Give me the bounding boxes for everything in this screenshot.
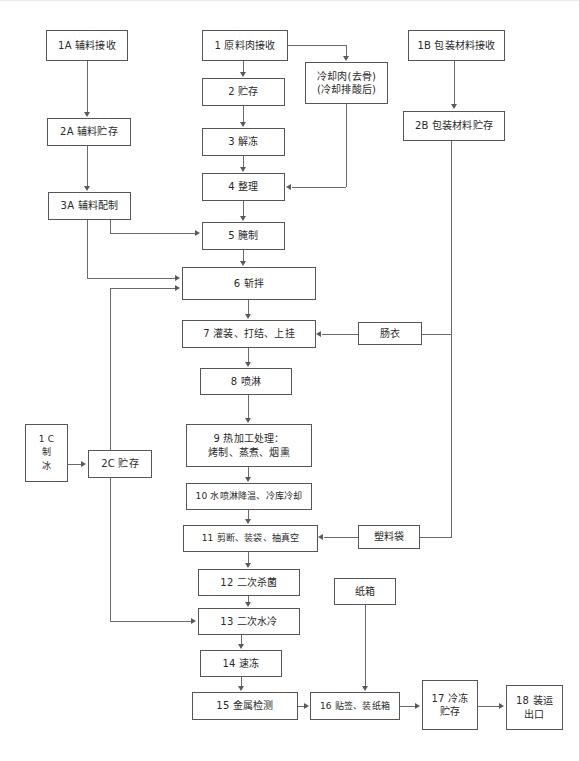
node-label: 16 贴签、装纸箱	[320, 700, 390, 712]
connector-bag-to-11	[324, 537, 358, 538]
node-label-line-1: 18 装运	[516, 694, 553, 708]
node-label-line-2: 贮存	[440, 705, 460, 719]
node-3-jiedong[interactable]: 3 解冻	[202, 128, 285, 156]
arrowhead-1c-to-2c	[81, 461, 86, 467]
node-18-zhuangyun-chukou[interactable]: 18 装运 出口	[506, 685, 563, 730]
arrowhead-1-to-2	[240, 72, 246, 77]
node-1-yuanliaorou-jieshou[interactable]: 1 原料肉接收	[202, 30, 288, 61]
connector-2-to-3	[243, 106, 244, 122]
arrowhead-15-to-16	[304, 703, 309, 709]
node-label: 15 金属检测	[216, 699, 273, 713]
node-changyi-casing[interactable]: 肠衣	[358, 322, 422, 345]
arrowhead-4-to-5	[240, 216, 246, 221]
node-13-erci-shuileng[interactable]: 13 二次水冷	[198, 608, 300, 635]
node-12-erci-shajun[interactable]: 12 二次杀菌	[198, 569, 300, 596]
arrowhead-1-to-cool	[343, 56, 349, 61]
node-label: 13 二次水冷	[220, 615, 277, 629]
connector-2c-to-13-v	[110, 478, 111, 621]
connector-1a-to-2a	[87, 61, 88, 113]
node-lengqueRou-qugu[interactable]: 冷却肉(去骨) (冷却排酸后)	[305, 62, 388, 104]
arrowhead-3-to-4	[240, 167, 246, 172]
arrowhead-3a-to-5	[195, 230, 200, 236]
node-2a-fuliao-zhucun[interactable]: 2A 辅料贮存	[47, 118, 131, 146]
connector-carton-to-16	[365, 605, 366, 686]
arrowhead-2c-to-6	[175, 285, 180, 291]
node-1c-zhibing[interactable]: 1 C 制 冰	[25, 424, 68, 482]
node-label: 肠衣	[380, 327, 400, 341]
connector-13-to-14	[241, 635, 242, 644]
node-14-sudong[interactable]: 14 速冻	[200, 650, 282, 677]
node-2c-zhucun[interactable]: 2C 贮存	[88, 450, 152, 478]
arrowhead-5-to-6	[240, 261, 246, 266]
node-4-zhengli[interactable]: 4 整理	[202, 173, 285, 201]
node-zhixiang-carton[interactable]: 纸箱	[334, 578, 396, 605]
node-10-shuipenlin-jiangwen[interactable]: 10 水喷淋降温、冷库冷却	[186, 483, 312, 510]
node-label-line-1: 9 热加工处理：	[213, 432, 284, 446]
arrowhead-17-to-18	[499, 703, 504, 709]
node-1b-baozhuang-cailiao-jieshou[interactable]: 1B 包装材料接收	[408, 30, 505, 61]
connector-16-to-17	[400, 706, 416, 707]
flowchart-canvas: 1A 辅料接收 1 原料肉接收 冷却肉(去骨) (冷却排酸后) 1B 包装材料接…	[0, 0, 579, 761]
node-8-penlin[interactable]: 8 喷淋	[200, 368, 292, 395]
node-label: 1B 包装材料接收	[417, 39, 495, 53]
top-rule	[0, 0, 579, 1]
connector-3a-to-6-v	[87, 220, 88, 278]
node-11-jianduan-zhuangdai-chouzhenkong[interactable]: 11 剪断、装袋、抽真空	[183, 525, 318, 552]
arrowhead-13-to-14	[238, 644, 244, 649]
node-label: 塑料袋	[374, 530, 405, 544]
connector-14-to-15	[241, 677, 242, 686]
connector-10-to-11	[248, 510, 249, 519]
node-label: 4 整理	[228, 180, 258, 194]
arrowhead-1a-to-2a	[84, 112, 90, 117]
node-label: 14 速冻	[223, 657, 260, 671]
connector-2c-to-13-h	[110, 621, 192, 622]
connector-cool-to-4-v	[346, 104, 347, 187]
node-3a-fuliao-peizhi[interactable]: 3A 辅料配制	[48, 192, 131, 220]
connector-6-to-7	[248, 300, 249, 314]
node-15-jinshu-jiance[interactable]: 15 金属检测	[192, 692, 298, 720]
node-9-rejiagong-chuli[interactable]: 9 热加工处理： 烤制、蒸煮、烟熏	[186, 424, 312, 467]
node-label: 7 灌装、打结、上挂	[203, 327, 295, 341]
connector-3a-to-5-v	[110, 220, 111, 233]
node-6-zhanban[interactable]: 6 斩拌	[182, 267, 316, 300]
node-2-zhucun[interactable]: 2 贮存	[202, 78, 285, 106]
connector-1-to-cool-h	[288, 45, 347, 46]
node-5-yanzhi[interactable]: 5 腌制	[202, 222, 285, 250]
node-label-line-3: 冰	[42, 460, 51, 473]
node-label-line-2: 出口	[524, 708, 544, 722]
arrowhead-1b-to-2b	[451, 104, 457, 109]
node-label: 纸箱	[355, 585, 375, 599]
arrowhead-10-to-11	[245, 519, 251, 524]
connector-5-to-6	[243, 250, 244, 261]
connector-casing-to-7	[322, 334, 358, 335]
connector-2c-to-6-h	[110, 288, 176, 289]
arrowhead-cool-to-4	[286, 184, 291, 190]
arrowhead-casing-to-7	[316, 331, 321, 337]
connector-17-to-18	[478, 706, 500, 707]
node-label-line-2: (冷却排酸后)	[317, 83, 376, 97]
node-label: 1A 辅料接收	[58, 39, 116, 53]
node-16-tieqian-zhuangzhixiang[interactable]: 16 贴签、装纸箱	[310, 692, 400, 720]
arrowhead-7-to-8	[245, 362, 251, 367]
connector-1c-to-2c	[68, 464, 82, 465]
connector-11-to-12	[248, 552, 249, 563]
node-2b-baozhuang-cailiao-zhucun[interactable]: 2B 包装材料贮存	[403, 111, 505, 141]
node-17-lengdong-zhucun[interactable]: 17 冷冻 贮存	[422, 680, 478, 730]
node-label: 8 喷淋	[231, 375, 261, 389]
node-suliaodai-plastic-bag[interactable]: 塑料袋	[358, 525, 420, 549]
connector-cool-to-4-h	[292, 187, 346, 188]
arrowhead-12-to-13	[245, 602, 251, 607]
connector-4-to-5	[243, 201, 244, 216]
node-7-guanzhuang-dajie-shanggua[interactable]: 7 灌装、打结、上挂	[182, 320, 316, 348]
connector-1b-to-2b	[454, 61, 455, 104]
node-label-line-1: 冷却肉(去骨)	[317, 70, 376, 84]
arrowhead-16-to-17	[415, 703, 420, 709]
arrowhead-carton-to-16	[362, 686, 368, 691]
arrowhead-2-to-3	[240, 122, 246, 127]
node-label: 12 二次杀菌	[220, 576, 277, 590]
node-1a-fuliao-jieshou[interactable]: 1A 辅料接收	[46, 30, 128, 61]
arrowhead-9-to-10	[245, 477, 251, 482]
node-label: 6 斩拌	[234, 277, 264, 291]
node-label: 2C 贮存	[101, 457, 139, 471]
node-label-line-2: 制	[42, 446, 51, 459]
